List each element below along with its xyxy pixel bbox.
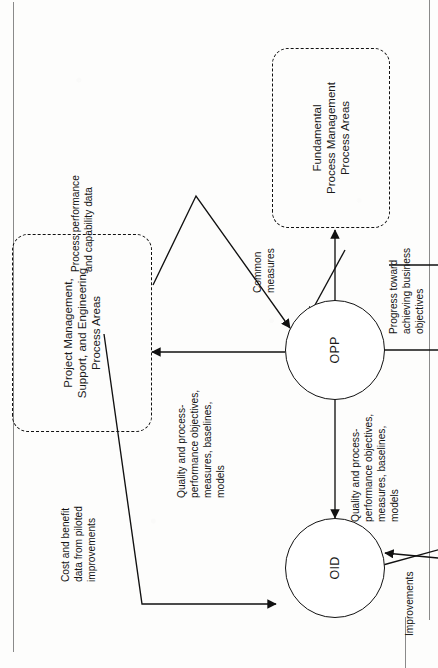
scanned-page: Project Management, Support, and Enginee… bbox=[0, 0, 438, 668]
diagram-rotated-wrapper: Project Management, Support, and Enginee… bbox=[0, 0, 438, 668]
node-oid[interactable]: OID bbox=[285, 518, 385, 618]
diagram-canvas: Project Management, Support, and Enginee… bbox=[0, 0, 438, 668]
edge-label-common-measures: Common measures bbox=[252, 183, 278, 293]
edge-label-quality-objectives-to-oid: Quality and process- performance objecti… bbox=[350, 370, 401, 522]
node-opp-label: OPP bbox=[328, 337, 342, 364]
node-fundamental-process-management-process-areas[interactable]: Fundamental Process Management Process A… bbox=[272, 48, 390, 228]
edge-label-process-performance: Process performance and capability data bbox=[70, 112, 96, 272]
edge-label-progress: Progress toward achieving business objec… bbox=[388, 204, 427, 334]
edge-label-improvements: Improvements bbox=[404, 526, 417, 636]
edge-label-quality-objectives-to-project: Quality and process- performance objecti… bbox=[176, 358, 227, 498]
node-fundamental-process-management-process-areas-label: Fundamental Process Management Process A… bbox=[310, 82, 353, 194]
edge-label-cost-and-benefit: Cost and benefit data from piloted impro… bbox=[60, 422, 99, 582]
node-oid-label: OID bbox=[328, 557, 342, 580]
node-project-management-process-areas-label: Project Management, Support, and Enginee… bbox=[61, 268, 104, 398]
